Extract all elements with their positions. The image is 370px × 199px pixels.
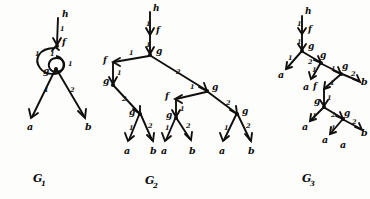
- g3-edgelabel-g3-fmid: 1: [330, 79, 335, 87]
- g2-edgelabel-gr-a: 1: [224, 124, 229, 132]
- g2-leaf-a2-label: a: [161, 145, 167, 156]
- g3-leaf-b1-label: b: [361, 76, 368, 87]
- g2-node-gr-label: g: [242, 106, 248, 116]
- g3-edgelabel-h-f: 1: [297, 20, 302, 28]
- g2-edgelabel-fmid-gm: 1: [180, 105, 185, 113]
- g1-node-g-label: g: [43, 66, 49, 76]
- g2-node-g-left-label: g: [103, 76, 109, 86]
- g3-leaf-a1-label: a: [278, 69, 284, 80]
- g2-node-g-top-label: g: [156, 46, 162, 56]
- g3-edgelabel-g5-b: 2: [351, 118, 357, 126]
- g2-edgelabel-gleft-gl: 2: [121, 95, 127, 103]
- g3-node-h-label: h: [305, 6, 312, 16]
- g2-edgelabel-h-f: 1: [146, 20, 151, 28]
- g2-leaf-a3-label: a: [219, 145, 225, 156]
- term-graphs-figure: h f g a b 1 1 1 1 1 2 G 1: [0, 0, 370, 199]
- g3-leaf-a3-label: a: [302, 121, 308, 132]
- g1-edgelabel-h-f: 1: [60, 25, 65, 33]
- g2-edgelabel-gl-a: 1: [129, 124, 134, 132]
- g1-edgelabel-g-a: 1: [44, 86, 49, 94]
- g1-edgelabel-loop-l: 1: [35, 50, 40, 58]
- g2-edgelabel-gm-b: 2: [185, 122, 191, 130]
- g1-edgelabel-loop-m: 1: [50, 50, 55, 58]
- g3-leaf-a2-label: a: [303, 81, 309, 92]
- g1-edgelabel-f-b: 2: [69, 86, 75, 94]
- g2-node-f-mid-label: f: [164, 91, 171, 101]
- g3-leaf-b2-label: b: [361, 127, 368, 138]
- g2-edgelabel-gl-b: 2: [147, 122, 153, 130]
- g2-node-f-left-label: f: [102, 55, 109, 65]
- g3-node-g3-label: g: [342, 61, 348, 71]
- g2-node-h-label: h: [153, 3, 160, 13]
- g3-node-g4-label: g: [314, 96, 320, 106]
- g3-edgelabel-g5-a: 1: [331, 124, 336, 132]
- g3-leaf-a4-label: a: [322, 134, 328, 145]
- g2-edge-gmid-gr: [208, 92, 236, 113]
- g2-node-gm-label: g: [166, 110, 172, 120]
- g1-leaf-a-label: a: [27, 121, 33, 132]
- g2-edgelabel-gtop-gmid: 2: [175, 68, 181, 76]
- g2-edgelabel-gm-a: 1: [165, 124, 170, 132]
- g3-edgelabel-gtop-a: 1: [288, 54, 293, 62]
- g2-edgelabel-fleft-g: 1: [117, 69, 122, 77]
- g1-leaf-b-label: b: [85, 121, 92, 132]
- g2-caption-sub: 2: [152, 181, 158, 190]
- g3-edgelabel-g2-g3: 1: [331, 65, 336, 73]
- g2-edgelabel-gmid-gr: 2: [225, 99, 231, 107]
- g2-node-f-top-label: f: [155, 25, 162, 35]
- g2-edgelabel-f-g: 1: [146, 41, 151, 49]
- g2-edgelabel-gr-b: 2: [245, 122, 251, 130]
- g3-edgelabel-f-g: 1: [297, 38, 302, 46]
- graph-g3: h f g g g f g g a a b a a a b 1 1 1 2 1 …: [278, 6, 368, 188]
- g3-caption-sub: 3: [310, 179, 315, 188]
- g1-node-h-label: h: [62, 9, 69, 19]
- g2-arrow-gr-b: [245, 133, 252, 141]
- graph-g1: h f g a b 1 1 1 1 1 2 G 1: [27, 9, 92, 188]
- g2-leaf-b2-label: b: [189, 145, 196, 156]
- g1-edge-h-f: [57, 18, 58, 44]
- g3-leaf-a5-label: a: [340, 139, 346, 150]
- g3-edgelabel-g4-a: 1: [312, 112, 317, 120]
- g3-edgelabel-fmid-g4: 1: [327, 94, 332, 102]
- g1-node-f-label: f: [61, 37, 68, 47]
- g3-edgelabel-g2-a: 1: [312, 66, 317, 74]
- graph-g2: h f g f g g f g g g a b a b a b 1 1 1 1 …: [102, 3, 255, 190]
- g3-node-g-top-label: g: [308, 41, 314, 51]
- g2-node-gl-label: g: [129, 107, 135, 117]
- g2-leaf-a1-label: a: [124, 145, 130, 156]
- g2-edgelabel-gmid-fmid: 1: [190, 83, 195, 91]
- g2-edgelabel-gtop-f: 1: [129, 49, 134, 57]
- g1-edgelabel-loop-r: 1: [68, 60, 73, 68]
- g3-edgelabel-gtop-g2: 2: [307, 58, 313, 66]
- g3-node-g2-label: g: [320, 50, 326, 60]
- g3-edgelabel-g3-b: 2: [350, 70, 356, 78]
- g3-node-f-mid-label: f: [312, 81, 319, 91]
- g2-node-g-mid-label: g: [212, 82, 218, 92]
- g1-caption-sub: 1: [41, 179, 46, 188]
- g2-leaf-b3-label: b: [248, 145, 255, 156]
- g2-leaf-b1-label: b: [150, 145, 157, 156]
- g3-edgelabel-g4-g5: 2: [330, 111, 336, 119]
- g3-node-g5-label: g: [344, 108, 350, 118]
- g3-node-f-top-label: f: [307, 24, 314, 34]
- figure-canvas: h f g a b 1 1 1 1 1 2 G 1: [0, 0, 370, 199]
